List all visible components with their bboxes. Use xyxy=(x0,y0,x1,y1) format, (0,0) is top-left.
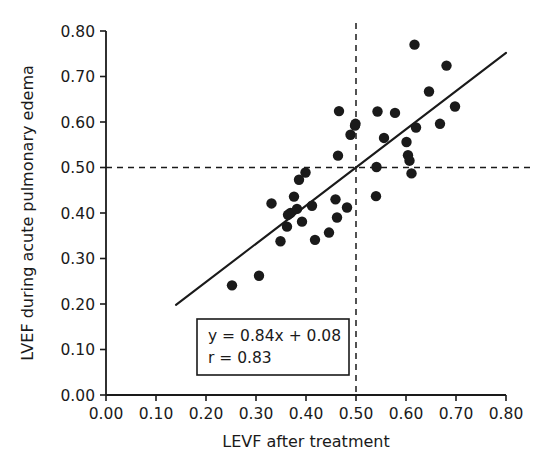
regression-line xyxy=(176,53,506,305)
data-point xyxy=(297,216,307,226)
data-point xyxy=(292,204,302,214)
y-tick-labels-group: 0.000.100.200.300.400.500.600.700.80 xyxy=(60,23,95,405)
y-tick-label: 0.80 xyxy=(60,23,95,41)
x-tick-label: 0.80 xyxy=(489,405,524,423)
data-point xyxy=(332,212,342,222)
data-point xyxy=(333,150,343,160)
data-point xyxy=(227,280,237,290)
data-point xyxy=(371,162,381,172)
data-point xyxy=(450,101,460,111)
annotation-box: y = 0.84x + 0.08 r = 0.83 xyxy=(197,319,349,375)
data-point xyxy=(307,201,317,211)
data-point xyxy=(310,235,320,245)
data-point xyxy=(350,119,360,129)
data-point xyxy=(441,60,451,70)
y-axis-title: LVEF during acute pulmonary edema xyxy=(18,65,37,361)
data-point xyxy=(401,137,411,147)
y-tick-label: 0.20 xyxy=(60,296,95,314)
data-point xyxy=(379,133,389,143)
data-point xyxy=(409,39,419,49)
data-point xyxy=(289,191,299,201)
data-points-group xyxy=(227,39,460,290)
x-tick-label: 0.20 xyxy=(189,405,224,423)
x-tick-label: 0.50 xyxy=(339,405,374,423)
data-point xyxy=(324,227,334,237)
data-point xyxy=(266,198,276,208)
x-tick-label: 0.00 xyxy=(89,405,124,423)
data-point xyxy=(330,194,340,204)
equation-text: y = 0.84x + 0.08 xyxy=(208,327,341,345)
data-point xyxy=(300,167,310,177)
data-point xyxy=(334,106,344,116)
scatter-plot-figure: 0.000.100.200.300.400.500.600.700.80 0.0… xyxy=(0,0,548,475)
y-tick-label: 0.00 xyxy=(60,387,95,405)
data-point xyxy=(435,119,445,129)
y-tick-label: 0.30 xyxy=(60,250,95,268)
data-point xyxy=(390,108,400,118)
x-tick-label: 0.10 xyxy=(139,405,174,423)
data-point xyxy=(275,236,285,246)
correlation-text: r = 0.83 xyxy=(208,349,272,367)
x-tick-label: 0.30 xyxy=(239,405,274,423)
data-point xyxy=(424,86,434,96)
y-tick-label: 0.70 xyxy=(60,68,95,86)
x-tick-label: 0.70 xyxy=(439,405,474,423)
data-point xyxy=(372,106,382,116)
plot-svg: 0.000.100.200.300.400.500.600.700.80 0.0… xyxy=(0,0,548,475)
x-tick-labels-group: 0.000.100.200.300.400.500.600.700.80 xyxy=(89,405,524,423)
data-point xyxy=(404,155,414,165)
x-tick-label: 0.60 xyxy=(389,405,424,423)
data-point xyxy=(345,130,355,140)
data-point xyxy=(282,221,292,231)
x-tick-label: 0.40 xyxy=(289,405,324,423)
data-point xyxy=(254,271,264,281)
data-point xyxy=(411,122,421,132)
y-tick-label: 0.60 xyxy=(60,114,95,132)
x-axis-title: LEVF after treatment xyxy=(222,432,389,451)
y-tick-label: 0.40 xyxy=(60,205,95,223)
data-point xyxy=(342,202,352,212)
data-point xyxy=(371,191,381,201)
regression-line-group xyxy=(176,53,506,305)
y-tick-label: 0.50 xyxy=(60,159,95,177)
y-tick-label: 0.10 xyxy=(60,341,95,359)
data-point xyxy=(406,168,416,178)
